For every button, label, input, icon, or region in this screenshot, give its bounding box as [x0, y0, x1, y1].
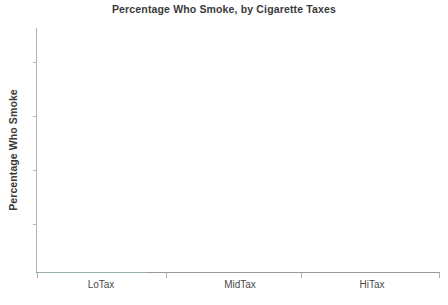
x-axis-line-tint: [37, 272, 147, 273]
x-axis-label-lotax: LoTax: [88, 279, 115, 290]
x-axis-tick: [37, 273, 38, 278]
y-axis-tick: [33, 62, 37, 63]
y-axis-tick: [33, 116, 37, 117]
x-axis-tick: [166, 273, 167, 278]
y-axis-tick: [33, 224, 37, 225]
x-axis-tick: [301, 273, 302, 278]
chart-title: Percentage Who Smoke, by Cigarette Taxes: [0, 3, 448, 15]
plot-area: [37, 28, 440, 272]
y-axis-title: Percentage Who Smoke: [7, 89, 19, 211]
y-axis-title-wrapper: Percentage Who Smoke: [0, 28, 26, 272]
x-axis-label-midtax: MidTax: [224, 279, 256, 290]
x-axis-tick: [439, 273, 440, 278]
x-axis-label-hitax: HiTax: [359, 279, 384, 290]
chart-container: Percentage Who Smoke, by Cigarette Taxes…: [0, 0, 448, 305]
y-axis-tick: [33, 170, 37, 171]
y-axis-line: [36, 28, 37, 273]
